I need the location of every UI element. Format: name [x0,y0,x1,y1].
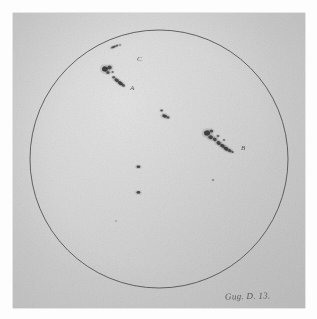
disk-outline-layer [30,30,288,288]
sunspot-umbra [210,130,214,133]
observer-signature: Gug. D. 13. [225,290,271,301]
sunspot-group-b [201,127,236,155]
sunspot-layer [99,43,235,222]
sunspot-group-center [159,109,171,121]
photographic-plate: C A B Gug. D. 13. [0,0,317,319]
sunspot-group-label-b: B [241,144,245,152]
sunspot-umbra [108,66,112,70]
sunspot-group-label-c: C [137,55,142,63]
sunspot-umbra [137,166,141,169]
sunspot-umbra [115,220,117,221]
sunspot-umbra [223,139,225,141]
solar-disk-drawing [13,13,305,308]
drawing-paper: C A B Gug. D. 13. [13,13,305,308]
sunspot-group-label-a: A [130,84,134,92]
sunspot-umbra [106,71,109,74]
sunspot-umbra [137,191,141,194]
sunspot-umbra [217,135,220,137]
sunspot-group-c [109,43,122,50]
solar-limb-circle [30,30,288,288]
sunspot-group-a [99,63,127,89]
sunspot-umbra [160,109,163,111]
sunspot-umbra [111,71,113,73]
sunspot-group-isolated [115,165,215,223]
sunspot-umbra [119,44,121,46]
sunspot-umbra [212,179,214,181]
